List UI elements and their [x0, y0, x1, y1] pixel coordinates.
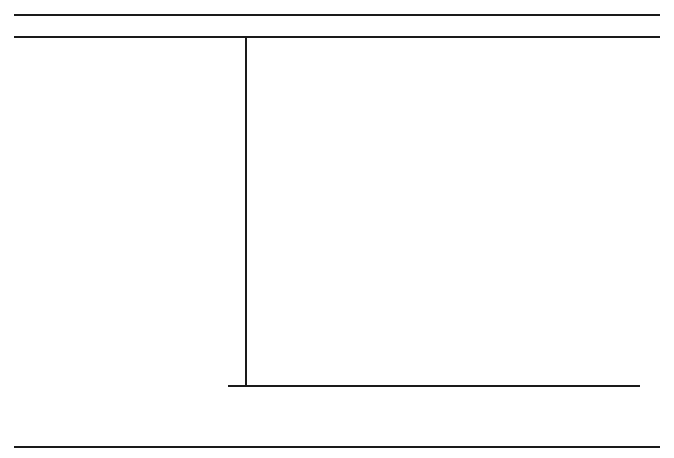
- chart-figure: [0, 0, 674, 458]
- value-axis-vertical-line: [245, 38, 247, 385]
- frame-rule-bottom: [14, 446, 660, 448]
- frame-rule-top: [14, 14, 660, 16]
- frame-rule-header: [14, 36, 660, 38]
- value-axis-horizontal-line: [228, 385, 640, 387]
